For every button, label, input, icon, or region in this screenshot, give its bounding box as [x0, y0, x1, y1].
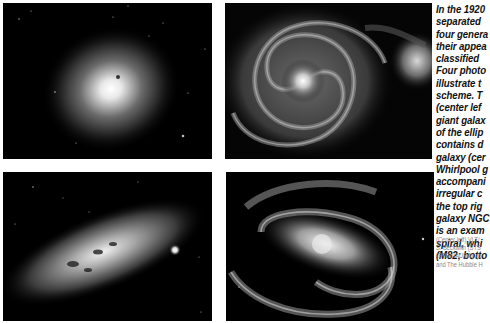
caption-line: scheme. T — [436, 89, 490, 101]
caption-line: irregular c — [436, 187, 490, 199]
elliptical-galaxy-image — [3, 3, 212, 159]
m82-galaxy-image — [3, 172, 212, 321]
caption-line: the top rig — [436, 200, 490, 212]
figure-caption: In the 1920 separated four genera their … — [436, 3, 490, 261]
caption-line: of the ellip — [436, 126, 490, 138]
elliptical-galaxy-photo — [3, 3, 212, 159]
caption-line: separated — [436, 15, 490, 27]
credit-line: (Center left) VLT/ — [436, 236, 483, 244]
caption-line: In the 1920 — [436, 3, 490, 15]
credit-line: (STScI/AURA); (b — [436, 252, 483, 260]
whirlpool-galaxy-photo — [225, 3, 432, 159]
credit-line: S. Beckwith (STS — [436, 244, 483, 252]
caption-line: contains d — [436, 138, 490, 150]
caption-line: galaxy (cer — [436, 151, 490, 163]
caption-line: accompani — [436, 175, 490, 187]
caption-line: four genera — [436, 28, 490, 40]
caption-line: Whirlpool g — [436, 163, 490, 175]
barred-spiral-galaxy-image — [226, 172, 434, 321]
credit-line: and The Hubble H — [436, 261, 483, 269]
caption-line: is an exam — [436, 224, 490, 236]
m82-irregular-galaxy-photo — [3, 172, 212, 321]
caption-line: classified — [436, 52, 490, 64]
caption-line: giant galax — [436, 114, 490, 126]
caption-line: (center lef — [436, 101, 490, 113]
barred-spiral-galaxy-photo — [226, 172, 434, 321]
caption-line: illustrate t — [436, 77, 490, 89]
caption-line: Four photo — [436, 64, 490, 76]
caption-line: their appea — [436, 40, 490, 52]
photo-credit: (Center left) VLT/ S. Beckwith (STS (STS… — [436, 236, 488, 269]
whirlpool-galaxy-image — [225, 3, 432, 159]
caption-line: galaxy NGC — [436, 212, 490, 224]
